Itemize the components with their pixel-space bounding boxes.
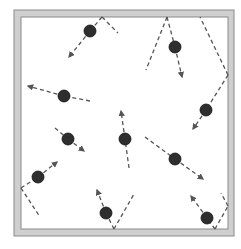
- particle-ball: [201, 212, 213, 224]
- particle-box-diagram: [0, 0, 241, 249]
- particle-ball: [100, 207, 112, 219]
- particle-ball: [169, 153, 181, 165]
- particle-ball: [32, 171, 44, 183]
- box-frame: [14, 10, 234, 236]
- particle-ball: [200, 104, 212, 116]
- particle-ball: [119, 133, 131, 145]
- particle-ball: [58, 90, 70, 102]
- particle-ball: [84, 25, 96, 37]
- particle-ball: [62, 133, 74, 145]
- particle-ball: [169, 41, 181, 53]
